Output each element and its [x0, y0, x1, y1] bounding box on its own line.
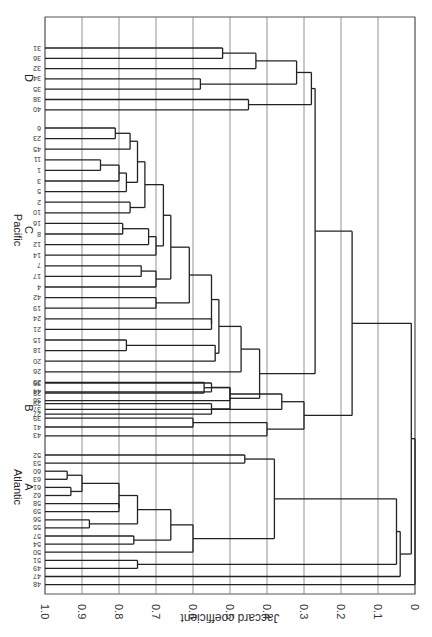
leaf-label: 40: [33, 106, 41, 113]
leaf-label: 41: [33, 424, 41, 431]
leaf-label: 32: [33, 65, 41, 72]
leaf-label: 20: [33, 358, 41, 365]
leaf-label: 39: [33, 415, 41, 422]
x-axis-label: Jaccard coefficient: [180, 611, 280, 625]
leaf-label: 17: [33, 273, 41, 280]
leaf-label: 63: [33, 476, 41, 483]
leaf-label: 15: [33, 337, 41, 344]
leaf-label: 1: [37, 167, 41, 174]
leaf-label: 58: [33, 500, 41, 507]
gridlines: [45, 17, 415, 594]
leaf-labels: 3136323435384062345111352101681214717442…: [33, 45, 41, 589]
leaf-label: 48: [33, 581, 41, 588]
leaf-label: 6: [37, 125, 41, 132]
leaf-label: 53: [33, 460, 41, 467]
leaf-label: 45: [33, 146, 41, 153]
leaf-label: 59: [33, 508, 41, 515]
group-label-a: A: [23, 483, 35, 491]
leaf-label: 4: [37, 284, 41, 291]
group-label-d: D: [23, 74, 35, 82]
leaf-label: 51: [33, 557, 41, 564]
leaf-label: 36: [33, 397, 41, 404]
leaf-label: 3: [37, 178, 41, 185]
leaf-label: 30: [33, 380, 41, 387]
leaf-label: 47: [33, 573, 41, 580]
leaf-label: 11: [34, 156, 41, 163]
x-tick-label: 0.3: [298, 604, 310, 619]
leaf-label: 10: [33, 209, 41, 216]
leaf-label: 43: [33, 432, 41, 439]
leaf-label: 57: [33, 533, 41, 540]
leaf-label: 35: [33, 86, 41, 93]
leaf-label: 44: [33, 388, 41, 395]
group-label-b: B: [23, 404, 35, 411]
leaf-label: 2: [37, 199, 41, 206]
leaf-label: 31: [33, 45, 41, 52]
x-tick-label: 0.8: [113, 604, 125, 619]
leaf-label: 5: [37, 188, 41, 195]
leaf-label: 52: [33, 452, 41, 459]
group-label-pacific: Pacific: [12, 214, 24, 247]
leaf-label: 54: [33, 541, 41, 548]
leaf-label: 49: [33, 565, 41, 572]
x-tick-label: 0.7: [150, 604, 162, 619]
leaf-label: 12: [33, 241, 41, 248]
leaf-label: 50: [33, 549, 41, 556]
dendrogram-chart: 1.00.90.80.70.60.50.40.30.20.10Jaccard c…: [0, 0, 432, 637]
leaf-label: 14: [33, 252, 41, 259]
x-tick-label: 0.2: [335, 604, 347, 619]
leaf-label: 42: [33, 294, 41, 301]
group-label-atlantic: Atlantic: [12, 469, 24, 506]
x-tick-label: 1.0: [39, 604, 51, 619]
leaf-label: 36: [33, 55, 41, 62]
x-tick-label: 0.9: [76, 604, 88, 619]
leaf-label: 8: [37, 231, 41, 238]
group-label-c: C: [23, 226, 35, 234]
leaf-label: 56: [33, 516, 41, 523]
leaf-label: 24: [33, 315, 41, 322]
leaf-label: 62: [33, 492, 41, 499]
group-labels: DPacificCBAtlanticA: [12, 74, 35, 506]
x-tick-label: 0: [409, 604, 421, 610]
leaf-label: 19: [33, 305, 41, 312]
leaf-label: 26: [33, 368, 41, 375]
leaf-label: 7: [37, 262, 41, 269]
leaf-label: 21: [33, 326, 41, 333]
leaf-label: 60: [33, 468, 41, 475]
leaf-label: 38: [33, 96, 41, 103]
leaf-label: 18: [33, 347, 41, 354]
x-tick-label: 0.1: [372, 604, 384, 619]
leaf-label: 23: [33, 135, 41, 142]
leaf-label: 55: [33, 524, 41, 531]
